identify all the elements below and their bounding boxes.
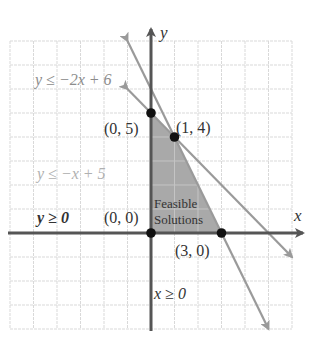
y-axis-label: y — [158, 23, 168, 42]
plot-area: x y y ≤ −2x + 6 y ≤ −x + 5 y ≥ 0 x ≥ 0 (… — [0, 0, 317, 351]
vertex-dot — [217, 228, 227, 238]
vertex-dot — [146, 228, 156, 238]
inequality-label-y-le-negx-plus-5: y ≤ −x + 5 — [35, 165, 106, 183]
vertex-dot — [146, 108, 156, 118]
inequality-label-y-le-neg2x-plus-6: y ≤ −2x + 6 — [33, 71, 112, 89]
point-label-0-5: (0, 5) — [104, 120, 139, 138]
x-axis-label: x — [293, 206, 302, 225]
inequality-label-y-ge-0: y ≥ 0 — [35, 209, 69, 227]
feasible-region-label-line2: Solutions — [154, 212, 203, 227]
inequality-label-x-ge-0: x ≥ 0 — [153, 285, 186, 302]
point-label-3-0: (3, 0) — [175, 242, 210, 260]
point-label-0-0: (0, 0) — [104, 209, 139, 227]
feasible-region-label-line1: Feasible — [154, 196, 198, 211]
point-label-1-4: (1, 4) — [176, 119, 211, 137]
inequality-graph: x y y ≤ −2x + 6 y ≤ −x + 5 y ≥ 0 x ≥ 0 (… — [0, 0, 317, 351]
